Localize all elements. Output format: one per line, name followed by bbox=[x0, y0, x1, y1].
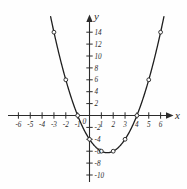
y-tick-label: 14 bbox=[95, 29, 103, 37]
parabola-graph-figure: -6-5-4-3-2-11234561412108642-2-4-6-8-10 … bbox=[0, 0, 187, 189]
y-tick-label: 8 bbox=[95, 65, 99, 73]
data-point-marker bbox=[123, 137, 127, 141]
y-tick-label: 6 bbox=[95, 76, 99, 84]
data-point-markers-group bbox=[52, 30, 162, 153]
y-tick-label: 2 bbox=[95, 100, 99, 108]
origin-label: 0 bbox=[83, 117, 87, 126]
x-tick-label: -4 bbox=[39, 121, 45, 129]
y-tick-label: -10 bbox=[95, 172, 105, 180]
x-tick-label: 3 bbox=[122, 121, 127, 129]
x-tick-label: -2 bbox=[63, 121, 69, 129]
x-tick-label: 5 bbox=[147, 121, 151, 129]
data-point-marker bbox=[64, 78, 68, 82]
data-point-marker bbox=[147, 78, 151, 82]
data-point-marker bbox=[111, 149, 115, 153]
x-tick-label: -6 bbox=[15, 121, 21, 129]
data-point-marker bbox=[76, 114, 80, 118]
y-tick-label: -8 bbox=[95, 160, 101, 168]
x-tick-label: 6 bbox=[159, 121, 163, 129]
y-tick-label: -2 bbox=[95, 124, 101, 132]
y-tick-label: 12 bbox=[95, 41, 103, 49]
x-tick-label: -3 bbox=[51, 121, 57, 129]
data-point-marker bbox=[52, 30, 56, 34]
y-axis-arrow-icon bbox=[86, 15, 92, 23]
x-axis-label: x bbox=[174, 109, 180, 121]
coordinate-plane-svg: -6-5-4-3-2-11234561412108642-2-4-6-8-10 … bbox=[0, 0, 187, 189]
x-tick-label: -5 bbox=[27, 121, 33, 129]
y-tick-label: -4 bbox=[95, 136, 101, 144]
x-tick-label: 4 bbox=[135, 121, 139, 129]
y-tick-label: 10 bbox=[95, 53, 103, 61]
y-tick-label: 4 bbox=[95, 88, 99, 96]
y-tick-label: -6 bbox=[95, 148, 101, 156]
x-tick-label: -1 bbox=[75, 121, 81, 129]
data-point-marker bbox=[159, 30, 163, 34]
data-point-marker bbox=[88, 137, 92, 141]
axes-group bbox=[8, 15, 174, 183]
x-axis-arrow-icon bbox=[166, 112, 174, 118]
y-axis-label: y bbox=[93, 10, 99, 22]
parabola-curve bbox=[51, 17, 164, 153]
parabola-curve-group bbox=[51, 17, 164, 153]
x-tick-label: 2 bbox=[111, 121, 115, 129]
data-point-marker bbox=[135, 114, 139, 118]
